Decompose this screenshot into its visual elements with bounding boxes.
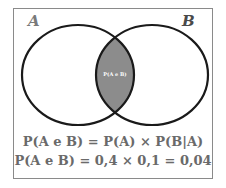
set-a-label: A [28, 14, 40, 29]
formula-general: P(A e B) = P(A) × P(B|A) [13, 134, 213, 150]
formula-computed: P(A e B) = 0,4 × 0,1 = 0,04 [13, 153, 213, 169]
set-b-label: B [182, 14, 195, 29]
intersection-label: P(A e B) [101, 71, 129, 77]
